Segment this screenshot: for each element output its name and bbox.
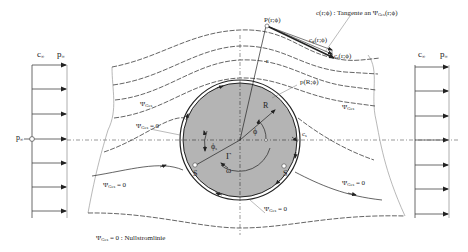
psi-zero-left-upper-label: ΨGes = 0 xyxy=(136,123,159,131)
angle-phi-s-label: ϕs xyxy=(211,143,217,152)
psi-right-upper-label: ΨGes xyxy=(342,104,354,112)
omega-label: ω xyxy=(226,167,231,175)
outflow-velocity-profile xyxy=(415,65,449,218)
c-phi-label: cϕ(r;ϕ) xyxy=(309,37,327,45)
stagnation-right-label: S xyxy=(283,170,287,178)
tangent-note: c(r;ϕ) : Tangente an ΨGes(r;ϕ) xyxy=(316,10,398,18)
outflow-p-label: p∞ xyxy=(440,50,448,60)
radius-r-label: r xyxy=(266,58,268,65)
psi-upper-label: ΨGes xyxy=(140,101,152,109)
legend-null-streamline: ΨGes = 0 : Nullstromlinie xyxy=(96,235,165,243)
stagnation-left-label: S xyxy=(193,170,197,178)
psi-zero-right-label: ΨGes = 0 xyxy=(342,180,365,188)
inflow-velocity-profile xyxy=(24,65,67,218)
inflow-c-label: c∞ xyxy=(37,50,44,60)
point-P-label: P(r;ϕ) xyxy=(264,17,281,24)
psi-zero-left-lower-label: ΨGes = 0 xyxy=(103,182,126,190)
surface-pressure-label: p(R;ϕ) xyxy=(300,79,318,86)
outflow-c-label: c∞ xyxy=(418,50,425,60)
side-pressure-label: p∞ xyxy=(16,134,23,143)
angle-phi-label: ϕ xyxy=(253,128,257,136)
flow-diagram-canvas xyxy=(0,0,468,252)
radius-R-label: R xyxy=(263,102,268,110)
circulation-gamma-label: Γ xyxy=(226,152,231,161)
c-s-label: cs xyxy=(302,131,307,139)
inflow-p-label: p∞ xyxy=(57,50,65,60)
c-r-label: cr(r;ϕ) xyxy=(334,53,351,61)
psi-zero-bottom-label: ΨGes = 0 xyxy=(264,206,287,214)
